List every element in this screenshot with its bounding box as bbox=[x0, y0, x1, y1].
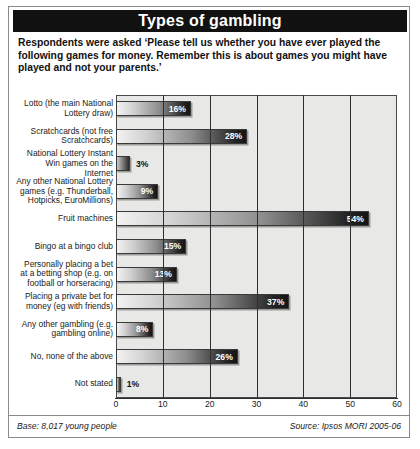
intro-paragraph: Respondents were asked ‘Please tell us w… bbox=[18, 37, 402, 75]
x-tick-label: 30 bbox=[252, 399, 262, 409]
bar-value-label: 8% bbox=[136, 325, 148, 334]
category-label: Any other National Lottery games (e.g. T… bbox=[15, 178, 113, 206]
category-label: No, none of the above bbox=[15, 343, 113, 371]
chart-title-bar: Types of gambling bbox=[13, 10, 407, 32]
gridline-30 bbox=[257, 95, 258, 398]
bar bbox=[116, 211, 369, 226]
bar-value-label: 9% bbox=[141, 187, 153, 196]
gridline-50 bbox=[350, 95, 351, 398]
category-label: Not stated bbox=[15, 370, 113, 398]
gridline-20 bbox=[210, 95, 211, 398]
category-label: Any other gambling (e.g. gambling online… bbox=[15, 315, 113, 343]
bar bbox=[116, 377, 121, 392]
bar-value-label: 37% bbox=[267, 297, 284, 306]
category-label: Bingo at a bingo club bbox=[15, 233, 113, 261]
bar-value-label: 26% bbox=[216, 352, 233, 361]
chart-footer: Base: 8,017 young people Source: Ipsos M… bbox=[9, 415, 409, 439]
category-axis-labels: Lotto (the main National Lottery draw)Sc… bbox=[15, 95, 113, 398]
footer-base: Base: 8,017 young people bbox=[17, 421, 117, 431]
x-tick-label: 60 bbox=[392, 399, 402, 409]
bar-value-label: 3% bbox=[136, 160, 148, 169]
footer-source: Source: Ipsos MORI 2005-06 bbox=[290, 421, 401, 431]
x-tick-label: 20 bbox=[205, 399, 215, 409]
chart-figure: Types of gambling Respondents were asked… bbox=[8, 6, 410, 438]
category-label: National Lottery Instant Win games on th… bbox=[15, 150, 113, 178]
category-label: Lotto (the main National Lottery draw) bbox=[15, 95, 113, 123]
bar-value-label: 1% bbox=[127, 380, 139, 389]
bar bbox=[116, 156, 130, 171]
x-tick-label: 50 bbox=[345, 399, 355, 409]
page-title: Types of gambling bbox=[138, 12, 282, 30]
x-tick-label: 0 bbox=[114, 399, 119, 409]
x-tick-label: 10 bbox=[158, 399, 168, 409]
gridline-10 bbox=[163, 95, 164, 398]
gridline-40 bbox=[303, 95, 304, 398]
bar-value-label: 28% bbox=[225, 132, 242, 141]
bar bbox=[116, 294, 289, 309]
category-label: Personally placing a bet at a betting sh… bbox=[15, 260, 113, 288]
bar-value-label: 16% bbox=[169, 104, 186, 113]
bar-value-label: 15% bbox=[164, 242, 181, 251]
category-label: Fruit machines bbox=[15, 205, 113, 233]
category-label: Scratchcards (not free Scratchcards) bbox=[15, 123, 113, 151]
plot-area: 16%28%3%9%54%15%13%37%8%26%1% bbox=[116, 95, 397, 398]
x-tick-label: 40 bbox=[299, 399, 309, 409]
x-axis-ticks: 0102030405060 bbox=[116, 399, 397, 413]
category-label: Placing a private bet for money (eg with… bbox=[15, 288, 113, 316]
